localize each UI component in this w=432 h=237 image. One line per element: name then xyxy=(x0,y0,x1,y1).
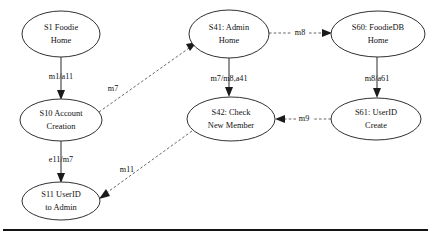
state-node-label-line1: S10 Account xyxy=(39,109,83,118)
edge-label-m7-m8-a41: m7/m8,a41 xyxy=(210,74,247,83)
arrow-head-icon xyxy=(57,173,65,183)
state-node-label-line2: Creation xyxy=(47,122,77,131)
arrow-head-icon xyxy=(99,189,110,199)
edge-label-m1-a11: m1/a11 xyxy=(49,72,73,81)
edge-s41-to-s42: m7/m8,a41 xyxy=(210,58,247,97)
edge-s1-to-s10: m1/a11 xyxy=(49,57,73,100)
state-node-label-line1: S61: UserID xyxy=(355,108,397,117)
edge-line xyxy=(99,46,192,112)
state-node-s11[interactable]: S11 UserID to Admin xyxy=(22,182,100,220)
edge-label-m11: m11 xyxy=(120,165,134,174)
state-node-s60[interactable]: S60: FoodieDB Home xyxy=(331,11,425,57)
edge-label-m7: m7 xyxy=(108,84,118,93)
state-node-label-line1: S11 UserID xyxy=(41,190,80,199)
arrow-head-icon xyxy=(373,88,381,98)
state-node-label-line1: S41: Admin xyxy=(209,23,250,32)
edge-label-m9: m9 xyxy=(299,114,309,123)
state-node-s41[interactable]: S41: Admin Home xyxy=(189,10,269,58)
state-node-shape[interactable] xyxy=(22,11,100,57)
state-node-shape[interactable] xyxy=(189,10,269,58)
state-node-shape[interactable] xyxy=(22,182,100,220)
state-node-label-line2: Home xyxy=(51,36,72,45)
state-transition-diagram: m1/a11 e11/m7 m7 m11 m7/m8,a41 xyxy=(0,0,432,237)
edge-s42-to-s11: m11 xyxy=(99,131,192,199)
state-node-s1[interactable]: S1 Foodie Home xyxy=(22,11,100,57)
edge-s41-to-s60: m8 xyxy=(269,28,332,37)
edge-s10-to-s11: e11/m7 xyxy=(49,141,73,183)
state-node-label-line2: Create xyxy=(365,121,387,130)
arrow-head-icon xyxy=(322,29,332,37)
state-node-shape[interactable] xyxy=(20,99,102,141)
state-node-label-line1: S42: Check xyxy=(212,108,252,117)
edge-label-e11-m7: e11/m7 xyxy=(49,155,73,164)
edge-s10-to-s41: m7 xyxy=(99,42,197,112)
state-node-label-line1: S1 Foodie xyxy=(44,23,78,32)
state-node-s42[interactable]: S42: Check New Member xyxy=(187,97,275,141)
arrow-head-icon xyxy=(275,115,285,123)
state-node-shape[interactable] xyxy=(331,11,425,57)
edge-line xyxy=(105,131,192,194)
state-node-s10[interactable]: S10 Account Creation xyxy=(20,99,102,141)
state-node-label-line1: S60: FoodieDB xyxy=(352,23,405,32)
edge-s60-to-s61: m8/a61 xyxy=(365,57,390,98)
state-node-s61[interactable]: S61: UserID Create xyxy=(331,98,421,140)
state-node-label-line2: New Member xyxy=(208,121,254,130)
edge-label-m8: m8 xyxy=(295,28,305,37)
arrow-head-icon xyxy=(225,87,233,97)
state-node-label-line2: to Admin xyxy=(45,203,77,212)
state-diagram-canvas: m1/a11 e11/m7 m7 m11 m7/m8,a41 xyxy=(0,0,432,237)
edge-s61-to-s42: m9 xyxy=(275,114,331,123)
edge-label-m8-a61: m8/a61 xyxy=(365,74,390,83)
state-node-shape[interactable] xyxy=(331,98,421,140)
state-node-label-line2: Home xyxy=(219,36,240,45)
state-node-shape[interactable] xyxy=(187,97,275,141)
arrow-head-icon xyxy=(57,90,65,100)
state-node-label-line2: Home xyxy=(368,36,389,45)
